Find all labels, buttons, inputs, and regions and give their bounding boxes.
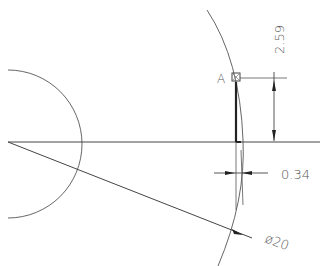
horizontal-dim-arrow-right: [242, 171, 252, 175]
cad-drawing: A 2.59 0.34 ø20: [0, 0, 332, 266]
diameter-leader-line: [8, 142, 252, 238]
horizontal-dim-extension-right: [241, 150, 243, 205]
vertical-dim-arrow-top: [272, 80, 276, 91]
point-a-label: A: [217, 72, 225, 86]
horizontal-dim-arrow-left: [225, 171, 235, 175]
horizontal-dimension-value: 0.34: [281, 167, 310, 182]
vertical-dim-arrow-bottom: [272, 130, 276, 141]
small-circle-arc: [8, 70, 82, 218]
vertical-dimension-value: 2.59: [272, 25, 287, 54]
diameter-dimension-value: ø20: [263, 231, 291, 253]
diameter-arrowhead: [232, 229, 243, 235]
